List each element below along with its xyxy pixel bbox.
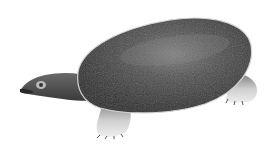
turtle-illustration: softshell turtle illustration <box>0 0 272 149</box>
turtle-drawing <box>0 0 272 149</box>
turtle-shell <box>78 18 252 113</box>
